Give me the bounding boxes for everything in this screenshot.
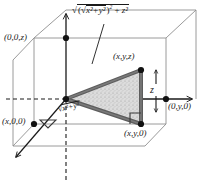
label-point-xyz: (x,y,z)	[113, 52, 135, 61]
label-hypotenuse-expression: √ (√x²+y²)2 + z²	[72, 4, 129, 15]
box-edge-topleft-diag	[34, 10, 66, 38]
label-point-y-axis: (0,y,0)	[168, 102, 191, 111]
dot-origin	[63, 96, 69, 102]
dot-z-axis	[63, 35, 69, 41]
dot-x-axis	[31, 121, 37, 127]
label-point-x-axis: (x,0,0)	[2, 117, 26, 126]
label-point-xy0: (x,y,0)	[124, 129, 147, 138]
dot-xyz	[138, 67, 144, 73]
box-edge-bottomleft-diag	[13, 124, 34, 146]
vertex-dots	[31, 35, 169, 127]
figure-canvas	[0, 0, 203, 185]
hyp-inner-power: 2	[109, 4, 112, 10]
hyp-inner-radicand: x²+y²	[86, 5, 106, 15]
label-vertical-leg-z: z	[150, 85, 154, 95]
distance-formula-figure: √ (√x²+y²)2 + z² (0,0,z) (x,y,z) (x,0,0)…	[0, 0, 203, 185]
hyp-plus: +	[114, 5, 119, 15]
label-point-z-axis: (0,0,z)	[4, 33, 27, 42]
box-edge-topright-diag	[166, 10, 196, 38]
dot-xy0	[138, 121, 144, 127]
bounding-box	[13, 10, 196, 146]
leader-line-hypotenuse	[92, 24, 104, 64]
hyp-zsq: z²	[122, 5, 128, 15]
box-edge-bottomright-diag	[145, 124, 166, 146]
right-triangle	[66, 70, 141, 124]
